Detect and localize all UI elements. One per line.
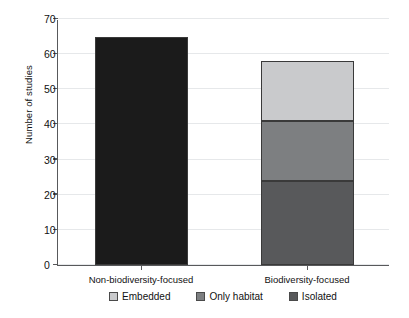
- x-tick-label: Biodiversity-focused: [264, 274, 349, 285]
- bar-biodiversity-focused[interactable]: [261, 61, 354, 265]
- y-tick-label: 10: [44, 224, 47, 236]
- plot-area: 010203040506070 Non-biodiversity-focused…: [57, 20, 389, 266]
- legend-item-isolated[interactable]: Isolated: [289, 291, 337, 302]
- legend-label: Only habitat: [209, 291, 262, 302]
- legend-swatch-icon: [196, 292, 205, 301]
- y-tick-label: 70: [44, 13, 47, 25]
- legend-item-embedded[interactable]: Embedded: [109, 291, 170, 302]
- y-tick-label: 50: [44, 83, 47, 95]
- y-tick-label: 30: [44, 154, 47, 166]
- y-tick-mark: [53, 264, 58, 265]
- chart-figure: Number of studies 010203040506070 Non-bi…: [0, 0, 409, 318]
- x-tick-mark: [141, 265, 142, 270]
- legend-label: Isolated: [302, 291, 337, 302]
- y-tick-label: 20: [44, 189, 47, 201]
- y-tick-label: 60: [44, 48, 47, 60]
- legend-swatch-icon: [289, 292, 298, 301]
- gridline: [58, 18, 389, 19]
- y-axis-title: Number of studies: [23, 25, 34, 185]
- y-tick-label: 0: [44, 259, 47, 271]
- chart-legend: EmbeddedOnly habitatIsolated: [57, 291, 389, 302]
- legend-label: Embedded: [122, 291, 170, 302]
- x-tick-label: Non-biodiversity-focused: [89, 274, 194, 285]
- bar-segment-embedded[interactable]: [261, 61, 354, 121]
- bar-segment-only-habitat[interactable]: [261, 121, 354, 181]
- bar-segment-non-biodiversity-total[interactable]: [95, 37, 188, 265]
- bar-segment-isolated[interactable]: [261, 181, 354, 265]
- x-tick-mark: [307, 265, 308, 270]
- y-tick-label: 40: [44, 118, 47, 130]
- legend-item-only-habitat[interactable]: Only habitat: [196, 291, 262, 302]
- bar-non-biodiversity-focused[interactable]: [95, 37, 188, 265]
- legend-swatch-icon: [109, 292, 118, 301]
